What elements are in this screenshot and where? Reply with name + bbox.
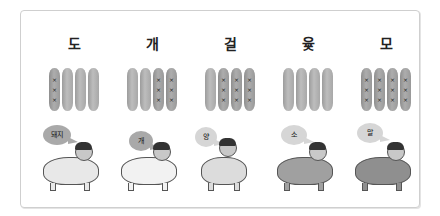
x-mark-icon: × — [156, 88, 161, 91]
speech-bubble: 소 — [281, 125, 307, 145]
x-mark-icon: × — [403, 98, 408, 101]
x-mark-icon: × — [221, 98, 226, 101]
column-title: 걸 — [191, 33, 269, 53]
sheep-icon — [201, 157, 247, 185]
yut-stick — [283, 68, 294, 111]
x-mark-icon: × — [247, 78, 252, 81]
x-mark-icon: × — [169, 98, 174, 101]
yut-stick — [140, 68, 151, 111]
yut-panel: 도 × × × 돼지 개 × × × — [20, 10, 420, 208]
x-mark-icon: × — [364, 88, 369, 91]
child-rider-icon — [387, 143, 405, 161]
column-title: 개 — [113, 33, 191, 53]
yut-stick — [296, 68, 307, 111]
cow-scene: 소 — [269, 121, 347, 201]
child-rider-icon — [75, 143, 93, 161]
x-mark-icon: × — [377, 88, 382, 91]
yut-sticks: × × × × × × × × × — [205, 68, 255, 111]
x-mark-icon: × — [364, 98, 369, 101]
yut-stick-marked: × × × — [166, 68, 177, 111]
column-gae: 개 × × × × × × 개 — [113, 11, 191, 207]
horse-icon — [355, 157, 411, 185]
column-mo: 모 × × × × × × × × × × × × 말 — [347, 11, 425, 207]
x-mark-icon: × — [247, 88, 252, 91]
x-mark-icon: × — [52, 88, 57, 91]
x-mark-icon: × — [403, 88, 408, 91]
child-rider-icon — [309, 143, 327, 161]
x-mark-icon: × — [52, 98, 57, 101]
cow-icon — [277, 157, 333, 185]
dog-scene: 개 — [113, 121, 191, 201]
x-mark-icon: × — [234, 88, 239, 91]
yut-stick-marked: × × × — [400, 68, 411, 111]
x-mark-icon: × — [221, 88, 226, 91]
x-mark-icon: × — [247, 98, 252, 101]
yut-stick-marked: × × × — [387, 68, 398, 111]
column-title: 모 — [347, 33, 425, 53]
yut-stick — [309, 68, 320, 111]
x-mark-icon: × — [169, 78, 174, 81]
x-mark-icon: × — [156, 78, 161, 81]
yut-sticks — [283, 68, 333, 111]
column-title: 윷 — [269, 33, 347, 53]
x-mark-icon: × — [390, 78, 395, 81]
column-title: 도 — [35, 33, 113, 53]
yut-sticks: × × × × × × × × × × × × — [361, 68, 411, 111]
x-mark-icon: × — [52, 78, 57, 81]
x-mark-icon: × — [221, 78, 226, 81]
yut-stick — [88, 68, 99, 111]
speech-bubble: 돼지 — [43, 125, 71, 145]
yut-stick-marked: × × × — [153, 68, 164, 111]
child-rider-icon — [219, 139, 237, 157]
column-geol: 걸 × × × × × × × × × 양 — [191, 11, 269, 207]
column-do: 도 × × × 돼지 — [35, 11, 113, 207]
yut-stick-marked: × × × — [231, 68, 242, 111]
yut-stick — [127, 68, 138, 111]
speech-bubble: 말 — [357, 123, 383, 143]
x-mark-icon: × — [364, 78, 369, 81]
column-yut: 윷 소 — [269, 11, 347, 207]
yut-sticks: × × × × × × — [127, 68, 177, 111]
yut-stick-marked: × × × — [49, 68, 60, 111]
speech-bubble: 양 — [195, 127, 217, 147]
x-mark-icon: × — [403, 78, 408, 81]
yut-sticks: × × × — [49, 68, 99, 111]
sheep-scene: 양 — [191, 121, 269, 201]
child-rider-icon — [153, 143, 171, 161]
horse-scene: 말 — [347, 121, 425, 201]
x-mark-icon: × — [390, 88, 395, 91]
yut-stick — [322, 68, 333, 111]
x-mark-icon: × — [234, 98, 239, 101]
yut-stick — [75, 68, 86, 111]
x-mark-icon: × — [234, 78, 239, 81]
yut-stick-marked: × × × — [361, 68, 372, 111]
pig-scene: 돼지 — [35, 121, 113, 201]
x-mark-icon: × — [390, 98, 395, 101]
yut-stick-marked: × × × — [374, 68, 385, 111]
x-mark-icon: × — [377, 98, 382, 101]
speech-bubble: 개 — [129, 131, 153, 151]
pig-icon — [43, 157, 99, 185]
dog-icon — [121, 157, 177, 185]
yut-stick-marked: × × × — [218, 68, 229, 111]
yut-stick-marked: × × × — [244, 68, 255, 111]
x-mark-icon: × — [377, 78, 382, 81]
x-mark-icon: × — [156, 98, 161, 101]
yut-stick — [62, 68, 73, 111]
x-mark-icon: × — [169, 88, 174, 91]
yut-stick — [205, 68, 216, 111]
